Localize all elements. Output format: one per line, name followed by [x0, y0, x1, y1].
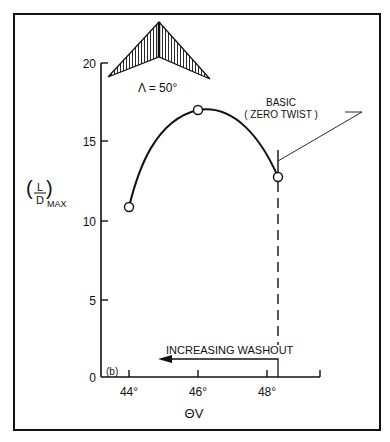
- data-points: [125, 106, 283, 212]
- x-axis: [101, 370, 320, 377]
- svg-text:): ): [46, 177, 53, 199]
- svg-text:(: (: [26, 177, 33, 199]
- data-point: [274, 173, 283, 182]
- svg-text:L: L: [37, 181, 43, 193]
- svg-text:46°: 46°: [189, 385, 207, 399]
- chart: Λ = 50° 20 15 10 5 0 44° 46° 48° (b) ΘV …: [0, 0, 390, 442]
- washout-arrow: [170, 359, 278, 377]
- sweep-label: Λ = 50°: [138, 81, 177, 95]
- basic-label: BASIC: [266, 97, 296, 108]
- arrow-head-icon: [158, 355, 172, 363]
- data-point: [194, 106, 203, 115]
- y-axis-title: ( L D ) MAX: [26, 177, 67, 209]
- washout-label: INCREASING WASHOUT: [166, 344, 294, 356]
- svg-text:0: 0: [89, 371, 96, 385]
- svg-text:5: 5: [89, 294, 96, 308]
- svg-text:20: 20: [83, 57, 97, 71]
- x-tick-labels: 44° 46° 48°: [120, 385, 276, 399]
- basic-label-sub: ( ZERO TWIST ): [244, 109, 318, 120]
- delta-wing-icon: [108, 22, 210, 79]
- panel-label: (b): [106, 366, 118, 377]
- y-tick-labels: 20 15 10 5 0: [83, 57, 97, 385]
- svg-text:D: D: [36, 194, 44, 206]
- svg-text:10: 10: [83, 215, 97, 229]
- data-curve: [129, 109, 278, 207]
- x-axis-title: ΘV: [185, 406, 204, 421]
- svg-text:48°: 48°: [258, 385, 276, 399]
- data-point: [125, 203, 134, 212]
- svg-text:44°: 44°: [120, 385, 138, 399]
- svg-text:15: 15: [83, 135, 97, 149]
- svg-text:MAX: MAX: [47, 199, 67, 209]
- y-axis: [101, 63, 108, 377]
